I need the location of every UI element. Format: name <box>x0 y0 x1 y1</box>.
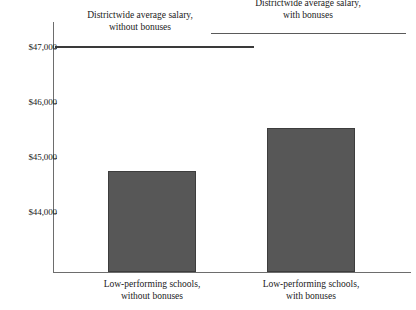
x-axis-line <box>53 272 411 273</box>
reference-label-districtwide-with-bonuses: Districtwide average salary, with bonuse… <box>233 0 383 21</box>
y-tick-label: $47,000 <box>9 42 57 52</box>
reference-label-line-1: Districtwide average salary, <box>233 0 383 10</box>
category-label-low-performing-without-bonuses: Low-performing schools, without bonuses <box>77 279 227 302</box>
salary-bonus-bar-chart: $47,000 $46,000 $45,000 $44,000 District… <box>0 0 416 310</box>
y-tick-label: $46,000 <box>9 97 57 107</box>
y-tick-label: $45,000 <box>9 152 57 162</box>
reference-line-districtwide-with-bonuses <box>211 33 406 34</box>
category-label-line-1: Low-performing schools, <box>77 279 227 291</box>
bar-low-performing-with-bonuses <box>267 128 355 272</box>
reference-label-line-2: without bonuses <box>65 22 215 34</box>
reference-label-line-1: Districtwide average salary, <box>65 10 215 22</box>
category-label-line-2: without bonuses <box>77 291 227 303</box>
category-label-low-performing-with-bonuses: Low-performing schools, with bonuses <box>236 279 386 302</box>
reference-label-districtwide-without-bonuses: Districtwide average salary, without bon… <box>65 10 215 33</box>
y-axis-line <box>53 22 54 272</box>
reference-line-districtwide-without-bonuses <box>55 46 254 48</box>
category-label-line-2: with bonuses <box>236 291 386 303</box>
bar-low-performing-without-bonuses <box>108 171 196 272</box>
category-label-line-1: Low-performing schools, <box>236 279 386 291</box>
y-tick-label: $44,000 <box>9 207 57 217</box>
reference-label-line-2: with bonuses <box>233 10 383 22</box>
